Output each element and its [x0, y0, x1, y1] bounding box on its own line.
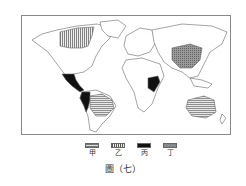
- region-bing-mexico: [62, 74, 84, 92]
- legend-label-jia: 甲: [84, 149, 100, 158]
- southeast-asia: [190, 78, 212, 88]
- legend-item-yi: 乙: [110, 143, 126, 158]
- region-jia-australia: [186, 96, 216, 118]
- new-zealand: [220, 114, 226, 124]
- legend-swatch-bing: [137, 143, 151, 148]
- legend-item-ding: 丁: [162, 143, 178, 158]
- legend-item-jia: 甲: [84, 143, 100, 158]
- legend-item-bing: 丙: [136, 143, 152, 158]
- europe: [124, 28, 156, 56]
- figure-caption: 圖（七）: [0, 162, 246, 175]
- legend-swatch-ding: [163, 143, 177, 148]
- legend-label-yi: 乙: [110, 149, 126, 158]
- map-frame: [21, 15, 231, 135]
- legend: 甲 乙 丙 丁: [0, 143, 246, 163]
- legend-swatch-yi: [111, 143, 125, 148]
- legend-label-bing: 丙: [136, 149, 152, 158]
- legend-label-ding: 丁: [162, 149, 178, 158]
- world-map: [22, 16, 230, 134]
- legend-swatch-jia: [85, 143, 99, 148]
